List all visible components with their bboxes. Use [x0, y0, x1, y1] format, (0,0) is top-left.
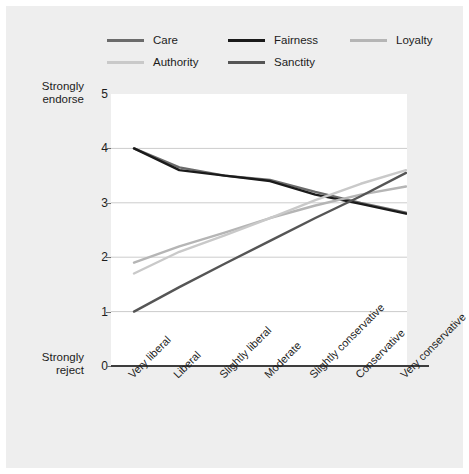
x-tick-label: Very liberal [126, 334, 173, 381]
y-tick-mark [106, 366, 111, 367]
x-axis-labels: Very liberalLiberalSlightly liberalModer… [6, 6, 469, 474]
y-tick-mark [106, 148, 111, 149]
y-tick-mark [106, 203, 111, 204]
y-tick-mark [106, 257, 111, 258]
x-tick-label: Very conservative [398, 311, 468, 381]
x-tick-label: Slightly conservative [307, 301, 386, 380]
chart-figure: CareFairnessLoyaltyAuthoritySanctity Str… [6, 6, 463, 468]
y-tick-mark [106, 312, 111, 313]
x-tick-label: Liberal [171, 349, 203, 381]
x-tick-label: Moderate [262, 339, 303, 380]
